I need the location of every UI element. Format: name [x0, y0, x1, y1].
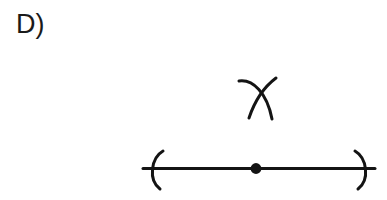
- midpoint-dot: [251, 163, 262, 174]
- construction-figure: [0, 0, 387, 200]
- diagram-canvas: D): [0, 0, 387, 200]
